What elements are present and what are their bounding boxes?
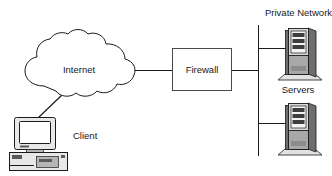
cloud-icon xyxy=(25,30,135,97)
private-network-label: Private Network xyxy=(265,7,332,18)
connection-client-to-internet xyxy=(38,94,63,118)
server-tower-icon xyxy=(278,103,322,155)
firewall-node: Firewall xyxy=(173,49,232,91)
server-tower-2 xyxy=(278,103,322,155)
client-label: Client xyxy=(73,130,98,141)
server-tower-icon xyxy=(278,28,322,80)
desktop-computer-icon xyxy=(10,118,68,171)
internet-cloud-node: Internet xyxy=(25,30,135,97)
server-tower-1 xyxy=(278,28,322,80)
diagram-canvas: Internet Firewall Private Network xyxy=(0,0,332,176)
internet-label: Internet xyxy=(63,64,96,75)
servers-label: Servers xyxy=(282,84,315,95)
firewall-label: Firewall xyxy=(186,64,219,75)
network-diagram: Internet Firewall Private Network xyxy=(0,0,332,176)
client-node: Client xyxy=(10,118,98,171)
